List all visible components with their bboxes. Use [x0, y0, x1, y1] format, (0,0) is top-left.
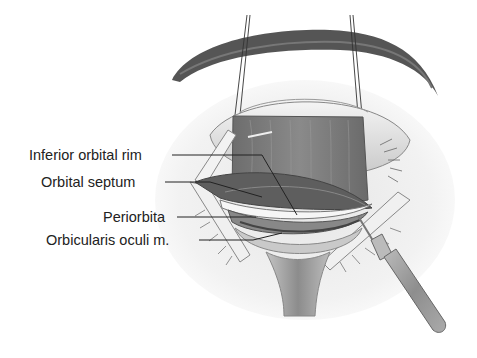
label-inferior-orbital-rim: Inferior orbital rim	[29, 148, 142, 163]
label-orbital-septum: Orbital septum	[41, 175, 135, 190]
label-orbicularis-oculi: Orbicularis oculi m.	[46, 233, 169, 248]
label-periorbita: Periorbita	[103, 210, 165, 225]
